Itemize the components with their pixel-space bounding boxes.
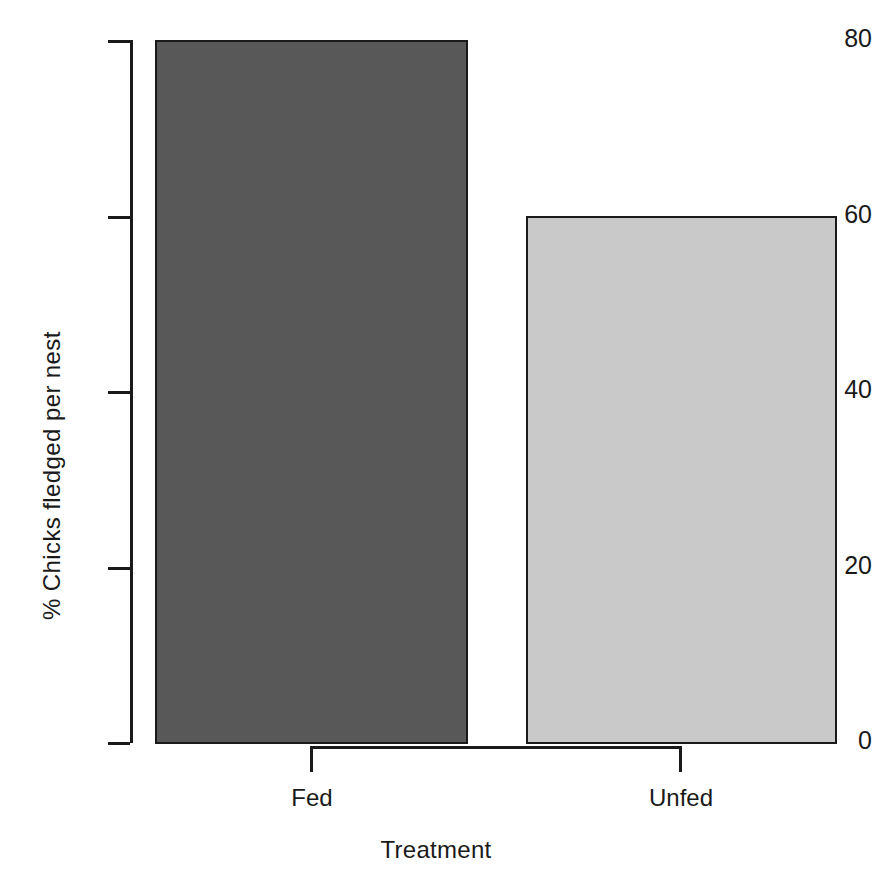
x-axis-label-unfed: Unfed bbox=[649, 784, 713, 812]
y-axis-tick-60 bbox=[108, 216, 130, 219]
y-axis-tick-40 bbox=[108, 391, 130, 394]
bar-fed bbox=[155, 40, 468, 744]
x-axis-label-fed: Fed bbox=[291, 784, 332, 812]
x-axis-line bbox=[310, 746, 682, 749]
x-axis-tick-unfed bbox=[679, 746, 682, 772]
y-axis-tick-20 bbox=[108, 567, 130, 570]
y-axis-label-80: 80 bbox=[774, 26, 872, 51]
plot-area: 80 60 40 20 0 % Chicks fledged per nest … bbox=[0, 0, 872, 882]
y-axis-title: % Chicks fledged per nest bbox=[38, 20, 66, 620]
y-axis-line bbox=[130, 40, 133, 743]
x-axis-tick-fed bbox=[310, 746, 313, 772]
bar-unfed bbox=[526, 216, 837, 744]
y-axis-tick-0 bbox=[108, 742, 130, 745]
y-axis-tick-80 bbox=[108, 40, 130, 43]
x-axis-title: Treatment bbox=[0, 836, 872, 864]
bar-chart-figure: 80 60 40 20 0 % Chicks fledged per nest … bbox=[0, 0, 872, 882]
